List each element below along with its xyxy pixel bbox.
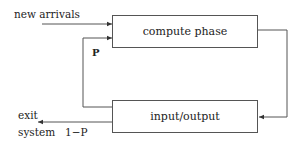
exit-label-line2: system — [18, 127, 55, 138]
compute-to-io-arrow — [258, 30, 287, 117]
compute-phase-box: compute phase — [112, 15, 258, 48]
queueing-diagram: compute phase input/output new arrivals … — [0, 0, 305, 144]
input-output-box: input/output — [112, 100, 258, 133]
feedback-probability-label: P — [92, 48, 100, 58]
exit-probability-label: 1−P — [65, 127, 88, 138]
input-output-label: input/output — [150, 110, 220, 123]
exit-label-line1: exit — [18, 110, 38, 121]
new-arrivals-label: new arrivals — [14, 9, 80, 20]
compute-phase-label: compute phase — [143, 25, 228, 38]
